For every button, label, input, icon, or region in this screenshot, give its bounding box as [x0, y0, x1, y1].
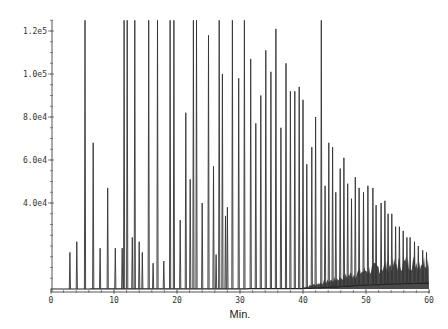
peak [107, 188, 108, 289]
peak [347, 184, 348, 287]
x-tick-label: 20 [172, 296, 182, 305]
peak [238, 78, 239, 288]
peak [324, 186, 325, 288]
x-tick-label: 60 [424, 296, 434, 305]
peak [185, 113, 186, 289]
peak [148, 20, 149, 289]
peak [122, 248, 123, 289]
peak [219, 20, 220, 289]
plot-area [51, 20, 429, 289]
peak [340, 169, 341, 287]
peak [232, 20, 233, 289]
x-axis-title: Min. [230, 308, 251, 320]
peak [260, 96, 261, 289]
peak [84, 20, 85, 289]
y-axis: 4.0e46.0e48.0e41.0e51.2e5 [23, 20, 54, 292]
peak [142, 252, 143, 289]
peak [265, 50, 266, 288]
peak [180, 220, 181, 289]
peak [134, 20, 135, 289]
y-tick-label: 1.0e5 [23, 70, 47, 79]
peak [196, 20, 197, 289]
peak [222, 74, 223, 289]
peak [299, 87, 300, 289]
peak [216, 255, 217, 289]
peak [351, 199, 352, 286]
peak [208, 35, 209, 288]
peak [193, 20, 194, 289]
y-tick-label: 1.2e5 [23, 27, 47, 36]
peak [306, 164, 307, 288]
peak [250, 59, 251, 289]
peak [280, 128, 281, 289]
peak [255, 123, 256, 288]
peak [328, 143, 329, 288]
peak [332, 147, 333, 287]
peak [311, 147, 312, 288]
chromatogram-chart: 4.0e46.0e48.0e41.0e51.2e5 0102030405060 … [0, 0, 448, 329]
peak [170, 20, 171, 289]
peak [93, 143, 94, 289]
peak [190, 179, 191, 288]
peak [213, 166, 214, 288]
x-tick-label: 10 [109, 296, 119, 305]
peak [285, 63, 286, 288]
peak [127, 20, 128, 289]
peak [139, 242, 140, 289]
peak [367, 186, 368, 285]
peak [270, 72, 271, 289]
y-tick-label: 4.0e4 [23, 199, 47, 208]
peak [315, 117, 316, 288]
x-tick-label: 50 [361, 296, 371, 305]
peak [124, 20, 125, 289]
x-axis: 0102030405060 [49, 289, 434, 305]
peak [153, 263, 154, 289]
peak [363, 192, 364, 285]
peak [173, 20, 174, 289]
peak [225, 216, 226, 289]
peak [132, 237, 133, 289]
peak [244, 20, 245, 289]
y-tick-label: 8.0e4 [23, 113, 47, 122]
y-tick-label: 6.0e4 [23, 156, 47, 165]
x-tick-label: 0 [49, 296, 54, 305]
peak [343, 158, 344, 287]
peak [290, 91, 291, 289]
x-tick-label: 30 [235, 296, 245, 305]
peak [227, 207, 228, 288]
peak [335, 192, 336, 287]
peak [157, 20, 158, 289]
peak [202, 203, 203, 289]
peak [115, 248, 116, 289]
x-tick-label: 40 [298, 296, 308, 305]
peak [76, 242, 77, 289]
peak [302, 100, 303, 289]
peak [321, 20, 322, 287]
peak [163, 261, 164, 289]
peak [355, 177, 356, 286]
peak [69, 252, 70, 289]
peak [275, 29, 276, 289]
peak [294, 91, 295, 289]
peak [100, 248, 101, 289]
